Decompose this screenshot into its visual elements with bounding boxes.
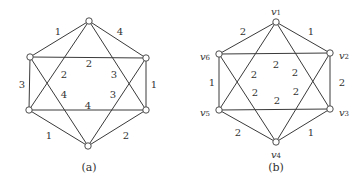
edge-weight-label: 1 (209, 77, 215, 88)
edge-weight-label: 2 (123, 130, 129, 141)
vertex-label-v2: v2 (339, 50, 349, 62)
vertex-subscript: 2 (345, 53, 349, 61)
edge-weight-label: 2 (339, 77, 345, 88)
edge (219, 22, 276, 54)
edge (219, 54, 276, 142)
edge-weight-label: 1 (308, 127, 314, 138)
edge (219, 109, 330, 110)
vertex-subscript: 1 (277, 9, 281, 17)
graph-b-edges (219, 22, 330, 142)
graph-a-caption: (a) (81, 161, 96, 174)
vertex-subscript: 5 (206, 110, 210, 118)
edge-weight-label: 4 (85, 100, 91, 111)
edge-weight-label: 2 (293, 86, 299, 97)
graph-a-vertices (26, 18, 149, 149)
edge-weight-label: 3 (111, 69, 117, 80)
vertex-subscript: 4 (277, 152, 282, 160)
edge (30, 57, 88, 146)
vertex-label-v6: v6 (200, 51, 211, 63)
vertex-lower-right (143, 107, 149, 113)
graph-b-vertices (216, 19, 333, 145)
edge-weight-label: 2 (251, 69, 257, 80)
edge-weight-label: 2 (274, 95, 280, 106)
vertex-v6 (216, 51, 222, 57)
edge-weight-label: 1 (151, 79, 157, 90)
vertex-label-v1: v1 (271, 6, 281, 18)
edge (29, 110, 88, 146)
vertex-lower-left (26, 107, 32, 113)
edge-weight-label: 2 (240, 26, 246, 37)
edge (219, 53, 330, 54)
graph-b-edge-weights: 211221222222 (209, 26, 345, 138)
edge-weight-label: 2 (86, 58, 92, 69)
edge-weight-label: 2 (252, 87, 258, 98)
edge-weight-label: 2 (273, 59, 279, 70)
vertex-v3 (327, 106, 333, 112)
vertex-v1 (273, 19, 279, 25)
edge-weight-label: 3 (110, 89, 116, 100)
edge (88, 110, 146, 146)
vertex-top (86, 18, 92, 24)
edge-weight-label: 2 (292, 67, 298, 78)
edge-weight-label: 3 (19, 79, 25, 90)
vertex-subscript: 6 (206, 54, 211, 62)
vertex-label-v5: v5 (200, 107, 210, 119)
vertex-v4 (273, 139, 279, 145)
edge (219, 22, 276, 110)
vertex-label-v4: v4 (271, 149, 282, 161)
vertex-label-v3: v3 (339, 107, 349, 119)
vertex-v2 (327, 50, 333, 56)
edge (276, 22, 330, 53)
graph-a: 143112242343 (a) (19, 18, 157, 174)
edge-weight-label: 4 (61, 89, 67, 100)
graph-b-vertex-labels: v1v2v3v4v5v6 (200, 6, 349, 161)
graph-b-caption: (b) (268, 161, 284, 174)
edge-weight-label: 1 (46, 130, 52, 141)
vertex-v5 (216, 107, 222, 113)
edge-weight-label: 4 (117, 26, 123, 37)
vertex-upper-right (143, 55, 149, 61)
edge-weight-label: 2 (235, 127, 241, 138)
graph-b: 211221222222 v1v2v3v4v5v6 (b) (200, 6, 349, 174)
graph-figure: 143112242343 (a) 211221222222 v1v2v3v4v5… (0, 0, 364, 186)
edge-weight-label: 1 (308, 26, 314, 37)
graph-a-edge-weights: 143112242343 (19, 26, 157, 141)
edge (219, 110, 276, 142)
vertex-subscript: 3 (345, 110, 349, 118)
edge (276, 109, 330, 142)
edge-weight-label: 2 (61, 69, 67, 80)
edge (29, 57, 30, 110)
edge-weight-label: 1 (55, 26, 61, 37)
graph-a-edges (29, 21, 146, 146)
vertex-bottom (85, 143, 91, 149)
vertex-upper-left (27, 54, 33, 60)
